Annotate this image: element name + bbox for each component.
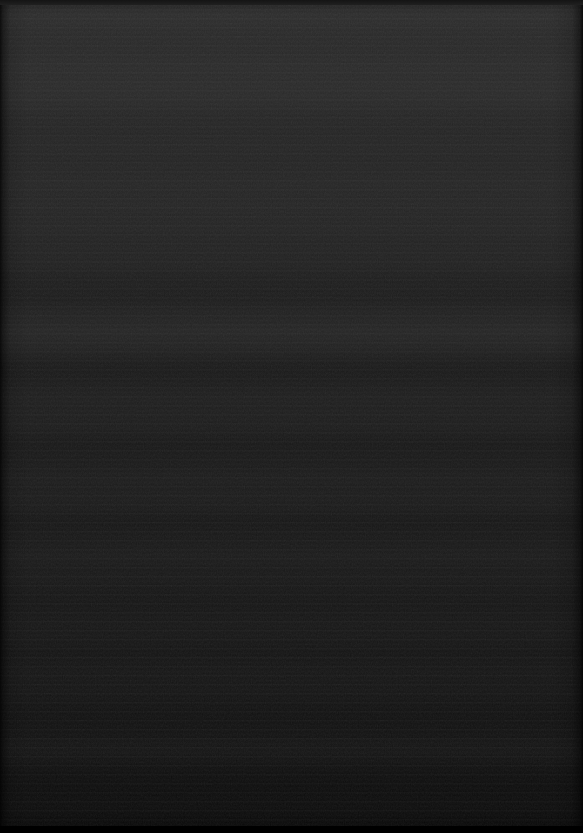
content-layer bbox=[0, 0, 583, 833]
screen-capture-root bbox=[0, 0, 583, 833]
